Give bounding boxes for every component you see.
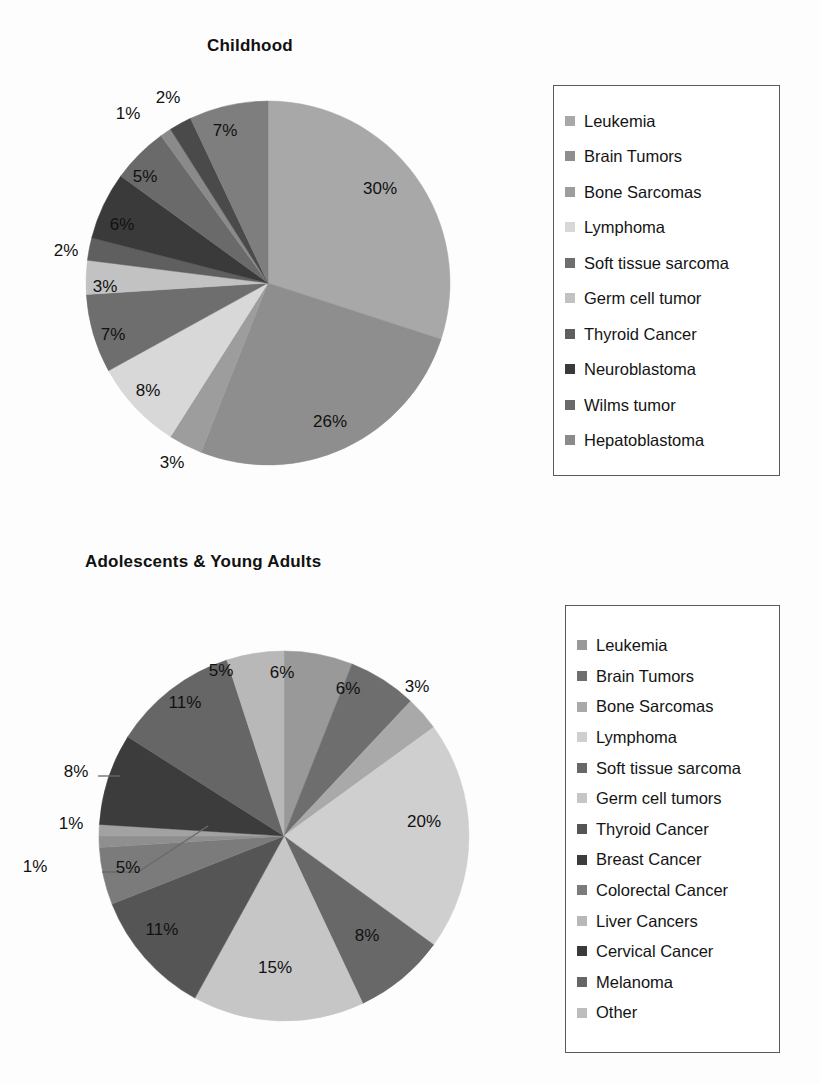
legend-item-label: Soft tissue sarcoma	[584, 255, 729, 272]
aya-legend-box: LeukemiaBrain TumorsBone SarcomasLymphom…	[565, 605, 780, 1053]
aya-slice-percent-label: 11%	[169, 693, 202, 713]
legend-item-label: Bone Sarcomas	[584, 184, 701, 201]
aya-slice-percent-label: 15%	[258, 958, 292, 978]
childhood-legend-item[interactable]: Brain Tumors	[554, 139, 779, 175]
childhood-slice-percent-label: 3%	[160, 453, 185, 473]
childhood-legend-item[interactable]: Lymphoma	[554, 210, 779, 246]
legend-item-label: Melanoma	[596, 974, 673, 991]
legend-swatch-icon	[577, 1008, 587, 1018]
aya-slice-percent-label: 1%	[23, 857, 48, 877]
legend-item-label: Wilms tumor	[584, 397, 676, 414]
childhood-slice-percent-label: 1%	[116, 104, 141, 124]
childhood-legend-box: LeukemiaBrain TumorsBone SarcomasLymphom…	[553, 85, 780, 476]
aya-legend-item[interactable]: Breast Cancer	[566, 844, 779, 875]
aya-legend-item[interactable]: Brain Tumors	[566, 661, 779, 692]
aya-slice-percent-label: 6%	[270, 663, 295, 683]
legend-item-label: Liver Cancers	[596, 913, 698, 930]
legend-swatch-icon	[565, 187, 575, 197]
aya-legend-item[interactable]: Cervical Cancer	[566, 936, 779, 967]
legend-swatch-icon	[577, 824, 587, 834]
legend-item-label: Brain Tumors	[596, 668, 694, 685]
aya-slice-percent-label: 20%	[407, 812, 441, 832]
legend-swatch-icon	[565, 329, 575, 339]
aya-legend-list: LeukemiaBrain TumorsBone SarcomasLymphom…	[566, 606, 779, 1052]
aya-slice-percent-label: 8%	[64, 762, 89, 782]
childhood-slice-percent-label: 26%	[313, 412, 347, 432]
aya-slice-percent-label: 11%	[146, 920, 179, 940]
childhood-legend-item[interactable]: Neuroblastoma	[554, 352, 779, 388]
aya-slice-percent-label: 6%	[336, 679, 361, 699]
legend-item-label: Thyroid Cancer	[584, 326, 697, 343]
legend-item-label: Leukemia	[596, 637, 668, 654]
legend-swatch-icon	[565, 435, 575, 445]
aya-legend-item[interactable]: Liver Cancers	[566, 905, 779, 936]
childhood-slice-percent-label: 7%	[213, 121, 238, 141]
legend-item-label: Leukemia	[584, 113, 656, 130]
childhood-legend-item[interactable]: Soft tissue sarcoma	[554, 245, 779, 281]
legend-item-label: Soft tissue sarcoma	[596, 760, 741, 777]
childhood-pie-svg	[85, 100, 451, 466]
aya-legend-item[interactable]: Thyroid Cancer	[566, 814, 779, 845]
aya-chart-title: Adolescents & Young Adults	[85, 552, 321, 572]
legend-swatch-icon	[577, 671, 587, 681]
legend-swatch-icon	[577, 977, 587, 987]
legend-item-label: Bone Sarcomas	[596, 698, 713, 715]
childhood-legend-item[interactable]: Thyroid Cancer	[554, 316, 779, 352]
aya-slice-percent-label: 5%	[209, 661, 234, 681]
aya-legend-item[interactable]: Colorectal Cancer	[566, 875, 779, 906]
legend-item-label: Colorectal Cancer	[596, 882, 728, 899]
childhood-slice-percent-label: 2%	[54, 241, 79, 261]
legend-swatch-icon	[565, 400, 575, 410]
legend-swatch-icon	[577, 640, 587, 650]
legend-swatch-icon	[565, 293, 575, 303]
childhood-pie-chart	[85, 100, 451, 466]
legend-swatch-icon	[577, 885, 587, 895]
childhood-legend-item[interactable]: Hepatoblastoma	[554, 423, 779, 459]
aya-legend-item[interactable]: Germ cell tumors	[566, 783, 779, 814]
legend-swatch-icon	[577, 702, 587, 712]
childhood-slice-percent-label: 3%	[93, 277, 118, 297]
legend-item-label: Neuroblastoma	[584, 361, 696, 378]
childhood-slice-percent-label: 2%	[156, 88, 181, 108]
legend-item-label: Lymphoma	[596, 729, 677, 746]
legend-swatch-icon	[565, 116, 575, 126]
legend-item-label: Brain Tumors	[584, 148, 682, 165]
childhood-legend-item[interactable]: Wilms tumor	[554, 387, 779, 423]
childhood-legend-item[interactable]: Leukemia	[554, 103, 779, 139]
aya-legend-item[interactable]: Lymphoma	[566, 722, 779, 753]
legend-item-label: Germ cell tumors	[596, 790, 722, 807]
childhood-legend-item[interactable]: Bone Sarcomas	[554, 174, 779, 210]
legend-swatch-icon	[565, 258, 575, 268]
aya-legend-item[interactable]: Bone Sarcomas	[566, 691, 779, 722]
aya-legend-item[interactable]: Melanoma	[566, 967, 779, 998]
childhood-slice-percent-label: 5%	[133, 167, 158, 187]
aya-slice-percent-label: 8%	[355, 926, 380, 946]
legend-item-label: Germ cell tumor	[584, 290, 701, 307]
legend-swatch-icon	[565, 222, 575, 232]
legend-item-label: Cervical Cancer	[596, 943, 713, 960]
childhood-slice-percent-label: 7%	[101, 325, 126, 345]
legend-swatch-icon	[577, 855, 587, 865]
legend-swatch-icon	[577, 946, 587, 956]
legend-swatch-icon	[577, 916, 587, 926]
legend-swatch-icon	[565, 364, 575, 374]
aya-leader-lines	[40, 760, 300, 1040]
legend-item-label: Breast Cancer	[596, 851, 701, 868]
legend-item-label: Lymphoma	[584, 219, 665, 236]
aya-legend-item[interactable]: Leukemia	[566, 630, 779, 661]
aya-slice-percent-label: 3%	[405, 677, 430, 697]
childhood-legend-list: LeukemiaBrain TumorsBone SarcomasLymphom…	[554, 86, 779, 475]
legend-swatch-icon	[577, 732, 587, 742]
legend-item-label: Thyroid Cancer	[596, 821, 709, 838]
childhood-slice-percent-label: 6%	[110, 215, 135, 235]
childhood-slice-percent-label: 30%	[363, 179, 397, 199]
childhood-slice-percent-label: 8%	[136, 381, 161, 401]
childhood-legend-item[interactable]: Germ cell tumor	[554, 281, 779, 317]
aya-legend-item[interactable]: Other	[566, 997, 779, 1028]
aya-legend-item[interactable]: Soft tissue sarcoma	[566, 753, 779, 784]
aya-slice-percent-label: 5%	[116, 858, 141, 878]
legend-swatch-icon	[577, 793, 587, 803]
legend-item-label: Hepatoblastoma	[584, 432, 704, 449]
aya-slice-percent-label: 1%	[59, 814, 84, 834]
legend-swatch-icon	[577, 763, 587, 773]
